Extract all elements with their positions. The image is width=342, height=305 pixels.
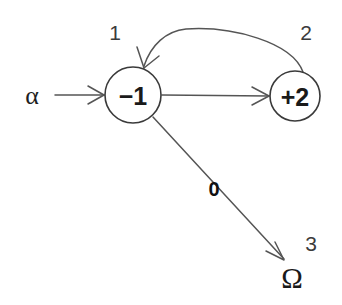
edge-node1-omega-arrowhead xyxy=(266,242,284,260)
edge-weight-label: 0 xyxy=(208,178,219,200)
edge-node1-to-omega: 0 xyxy=(153,117,284,260)
node-plus-two-value: +2 xyxy=(281,83,310,111)
state-transition-diagram: 0 −1 1 +2 2 α Ω 3 xyxy=(0,0,342,305)
edge-node2-node1-arc xyxy=(144,29,303,72)
omega-index: 3 xyxy=(305,232,317,255)
edge-alpha-to-node1 xyxy=(55,86,104,104)
node-plus-two[interactable]: +2 xyxy=(270,71,320,121)
node-minus-one-index: 1 xyxy=(109,21,121,44)
edge-node1-to-node2 xyxy=(162,87,269,105)
node-plus-two-index: 2 xyxy=(300,21,312,44)
node-minus-one[interactable]: −1 xyxy=(105,67,161,123)
edge-node1-node2-line xyxy=(162,95,269,96)
diagram-canvas: 0 −1 1 +2 2 α Ω 3 xyxy=(0,0,342,305)
node-minus-one-value: −1 xyxy=(119,82,148,110)
edge-node2-to-node1 xyxy=(137,29,303,72)
omega-symbol: Ω xyxy=(281,262,303,294)
alpha-symbol: α xyxy=(25,81,39,110)
